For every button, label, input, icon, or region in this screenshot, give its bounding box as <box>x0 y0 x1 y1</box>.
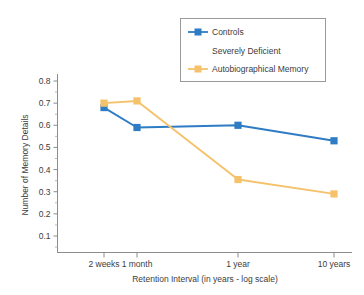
y-tick-label-0.5: 0.5 <box>39 142 51 152</box>
data-point-marker[interactable] <box>234 122 241 129</box>
chart-figure: 0.10.20.30.40.50.60.70.8 2 weeks1 month1… <box>0 0 364 295</box>
x-tick-label-10-years: 10 years <box>318 259 351 269</box>
y-axis-title: Number of Memory Details <box>20 114 30 215</box>
y-tick-label-0.3: 0.3 <box>39 187 51 197</box>
y-tick-label-0.1: 0.1 <box>39 231 51 241</box>
y-tick-label-0.7: 0.7 <box>39 98 51 108</box>
y-tick-label-0.8: 0.8 <box>39 76 51 86</box>
data-point-marker[interactable] <box>330 190 337 197</box>
y-tick-label-0.2: 0.2 <box>39 209 51 219</box>
legend-marker-sdam <box>195 66 202 73</box>
x-tick-label-2-weeks: 2 weeks <box>88 259 119 269</box>
legend-label-sdam-line2: Autobiographical Memory <box>212 64 309 74</box>
data-point-marker[interactable] <box>100 100 107 107</box>
data-point-marker[interactable] <box>133 97 140 104</box>
line-chart: 0.10.20.30.40.50.60.70.8 2 weeks1 month1… <box>0 0 364 295</box>
data-point-marker[interactable] <box>234 176 241 183</box>
legend-item-controls[interactable]: Controls <box>188 27 244 37</box>
x-axis-title: Retention Interval (in years - log scale… <box>132 274 278 284</box>
legend-label-controls: Controls <box>212 27 244 37</box>
data-point-marker[interactable] <box>133 124 140 131</box>
legend-label-sdam-line1: Severely Deficient <box>212 46 281 56</box>
x-tick-label-1-year: 1 year <box>226 259 250 269</box>
legend-marker-controls <box>195 29 202 36</box>
x-tick-label-1-month: 1 month <box>122 259 153 269</box>
chart-legend: Controls Severely Deficient Autobiograph… <box>181 19 326 82</box>
y-tick-label-0.4: 0.4 <box>39 165 51 175</box>
y-tick-label-0.6: 0.6 <box>39 120 51 130</box>
data-point-marker[interactable] <box>330 137 337 144</box>
